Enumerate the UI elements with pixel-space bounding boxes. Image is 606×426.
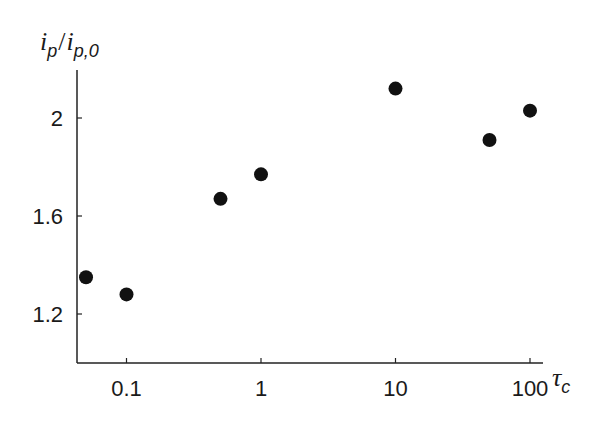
- data-point: [389, 82, 403, 96]
- data-point: [254, 167, 268, 181]
- y-tick-label: 1.6: [32, 204, 63, 229]
- y-ticks: 1.21.62: [32, 106, 82, 327]
- x-tick-label: 10: [383, 376, 407, 401]
- y-tick-label: 2: [51, 106, 63, 131]
- data-point: [120, 287, 134, 301]
- x-tick-label: 1: [255, 376, 267, 401]
- data-points: [79, 82, 537, 302]
- axes: [77, 70, 543, 363]
- scatter-chart: 1.21.62 0.1110100 ip/ip,0 τc: [0, 0, 606, 426]
- data-point: [483, 133, 497, 147]
- x-tick-label: 0.1: [111, 376, 142, 401]
- x-ticks: 0.1110100: [111, 358, 548, 401]
- x-axis-title: τc: [552, 363, 570, 397]
- y-tick-label: 1.2: [32, 302, 63, 327]
- data-point: [79, 270, 93, 284]
- y-axis-title: ip/ip,0: [40, 27, 99, 61]
- x-tick-label: 100: [512, 376, 549, 401]
- data-point: [214, 192, 228, 206]
- data-point: [523, 104, 537, 118]
